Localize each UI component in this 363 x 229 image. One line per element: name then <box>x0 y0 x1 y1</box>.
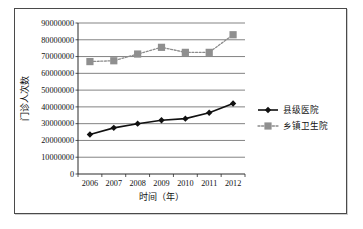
data-point-marker <box>229 31 236 38</box>
legend-marker-square <box>264 122 271 129</box>
y-tick-label: 10000000 <box>41 153 74 162</box>
x-tick-label: 2009 <box>153 179 169 188</box>
y-tick-label: 40000000 <box>41 103 74 112</box>
data-point-marker <box>134 120 140 126</box>
x-tick-label: 2007 <box>106 179 122 188</box>
data-point-marker <box>230 100 236 106</box>
data-point-marker <box>134 50 141 57</box>
x-tick-label: 2012 <box>225 179 241 188</box>
y-tick-label: 80000000 <box>41 36 74 45</box>
data-point-marker <box>86 58 93 65</box>
y-tick-label: 30000000 <box>41 119 74 128</box>
y-tick-label: 20000000 <box>41 136 74 145</box>
data-point-marker <box>206 49 213 56</box>
data-point-marker <box>111 125 117 131</box>
data-point-marker <box>87 131 93 137</box>
y-tick-label: 60000000 <box>41 69 74 78</box>
chart-legend: 县级医院乡镇卫生院 <box>258 104 328 131</box>
y-axis-tick-labels: 0100000002000000030000000400000005000000… <box>41 19 74 179</box>
legend-item: 乡镇卫生院 <box>258 120 328 131</box>
data-point-marker <box>182 49 189 56</box>
y-tick-label: 90000000 <box>41 19 74 28</box>
legend-item: 县级医院 <box>258 104 319 115</box>
y-tick-label: 0 <box>70 170 74 179</box>
data-point-marker <box>110 57 117 64</box>
gridlines <box>78 23 245 157</box>
x-axis-title: 时间（年） <box>139 191 184 202</box>
data-point-marker <box>158 44 165 51</box>
data-point-marker <box>206 110 212 116</box>
legend-label: 乡镇卫生院 <box>283 120 328 131</box>
x-tick-label: 2011 <box>201 179 217 188</box>
legend-marker-diamond <box>265 107 271 113</box>
y-axis-title: 门诊人次数 <box>19 76 30 121</box>
y-tick-label: 50000000 <box>41 86 74 95</box>
series-township-health-centers <box>86 31 236 65</box>
x-axis-tick-labels: 2006200720082009201020112012 <box>82 179 242 188</box>
x-tick-label: 2010 <box>177 179 193 188</box>
series-county-hospitals <box>87 100 237 137</box>
data-point-marker <box>182 115 188 121</box>
line-chart: 0100000002000000030000000400000005000000… <box>0 0 363 229</box>
x-tick-label: 2006 <box>82 179 98 188</box>
x-tick-label: 2008 <box>129 179 145 188</box>
data-point-marker <box>158 117 164 123</box>
legend-label: 县级医院 <box>283 104 319 115</box>
y-tick-label: 70000000 <box>41 52 74 61</box>
